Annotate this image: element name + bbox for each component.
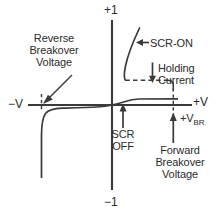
scr-off-arrow-icon <box>120 104 127 129</box>
holding-current-label: HoldingCurrent <box>158 62 216 86</box>
scr-off-label: SCROFF <box>105 128 141 152</box>
reverse-breakover-voltage-label: ReverseBreakoverVoltage <box>14 32 94 69</box>
scr-on-curve <box>124 28 139 80</box>
scr-on-label: SCR-ON <box>150 37 193 49</box>
scr-characteristic-figure: +1 −1 −V +V ReverseBreakoverVoltage SCR-… <box>0 0 221 221</box>
reverse-breakdown-curve <box>42 105 113 178</box>
y-axis-positive-label: +1 <box>104 4 117 16</box>
x-axis-negative-label: −V <box>8 98 23 110</box>
vbr-main: +V <box>180 112 194 124</box>
forward-breakover-arrow-icon <box>170 113 177 144</box>
reverse-breakover-arrow-icon <box>43 75 72 104</box>
x-axis-positive-label: +V <box>193 96 208 108</box>
vbr-subscript: BR <box>194 118 205 127</box>
forward-breakover-voltage-label: ForwardBreakoverVoltage <box>143 144 217 181</box>
forward-breakover-voltage-symbol: +VBR <box>180 112 204 126</box>
y-axis-negative-label: −1 <box>104 196 117 208</box>
scr-on-arrow-icon <box>136 39 149 46</box>
